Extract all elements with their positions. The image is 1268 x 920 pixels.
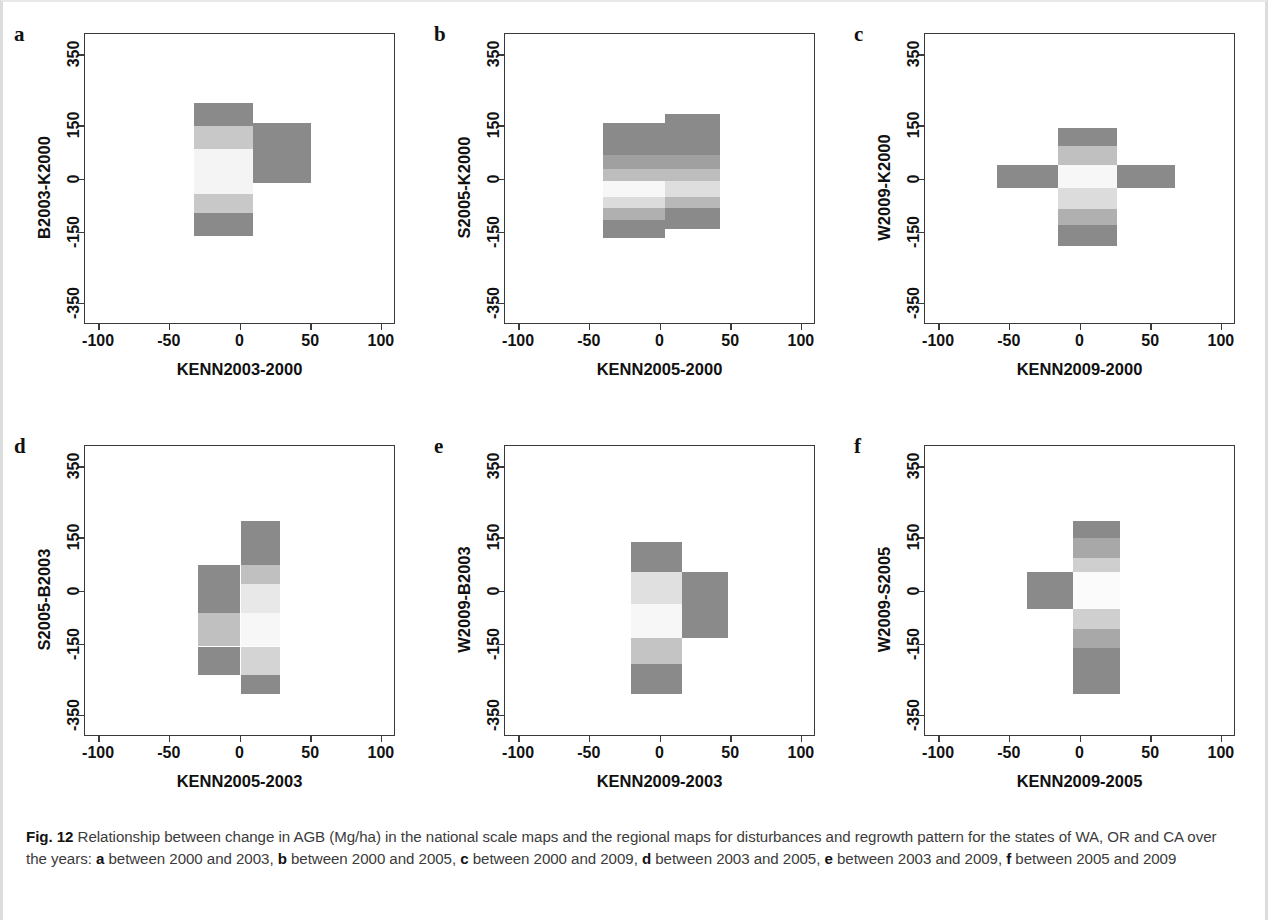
y-tick-text: -350 (905, 699, 923, 731)
caption-text-run: between 2000 and 2009, (469, 850, 642, 867)
caption-divider (26, 812, 1231, 813)
heatmap-cell (665, 197, 720, 208)
caption-bold-run: Fig. 12 (26, 828, 73, 845)
x-tick-label: 100 (1208, 744, 1235, 762)
x-tick-mark (1150, 736, 1152, 742)
heatmap-cell (603, 220, 665, 238)
y-tick-text: 350 (65, 41, 83, 68)
heatmap-cell (603, 197, 665, 208)
panel-letter-f: f (854, 436, 861, 457)
x-tick-label: -100 (922, 332, 954, 350)
caption-text-run: between 2003 and 2009, (833, 850, 1006, 867)
caption-text-run: between 2000 and 2003, (104, 850, 277, 867)
y-tick-text: -150 (485, 216, 503, 248)
heatmap-cell (631, 542, 682, 572)
plot-area-a (84, 33, 395, 324)
plot-area-e (504, 445, 815, 736)
y-tick-text: -150 (905, 628, 923, 660)
heatmap-cell (198, 565, 240, 613)
x-tick-mark (730, 736, 732, 742)
x-tick-label: -50 (577, 744, 600, 762)
y-axis-label-c: W2009-K2000 (875, 98, 894, 278)
x-tick-label: -100 (82, 744, 114, 762)
x-tick-mark (98, 324, 100, 330)
x-tick-mark (169, 324, 171, 330)
heatmap-cell (198, 613, 240, 647)
x-tick-mark (730, 324, 732, 330)
heatmap-cell (603, 169, 665, 181)
x-tick-label: 100 (368, 332, 395, 350)
heatmap-cell (1073, 629, 1120, 649)
heatmap-cell (631, 604, 682, 638)
x-tick-label: -100 (502, 744, 534, 762)
y-tick-text: 0 (905, 586, 923, 595)
heatmap-cell (253, 123, 311, 183)
heatmap-cell (665, 155, 720, 169)
heatmap-cell (1073, 521, 1120, 539)
heatmap-cell (631, 638, 682, 665)
plot-area-d (84, 445, 395, 736)
heatmap-cell (194, 194, 253, 214)
heatmap-cell (1058, 225, 1117, 246)
x-axis-label-d: KENN2005-2003 (84, 772, 395, 791)
x-tick-label: 50 (721, 744, 739, 762)
plot-area-f (924, 445, 1235, 736)
heatmap-cell (665, 114, 720, 155)
panel-letter-e: e (434, 436, 443, 457)
x-tick-mark (938, 324, 940, 330)
y-tick-text: 0 (65, 174, 83, 183)
y-tick-text: 350 (485, 41, 503, 68)
heatmap-cell (241, 647, 281, 675)
x-tick-mark (240, 736, 242, 742)
heatmap-cell (1073, 609, 1120, 629)
y-tick-text: -350 (65, 699, 83, 731)
x-tick-mark (381, 736, 383, 742)
heatmap-cell (1058, 146, 1117, 166)
x-tick-label: 100 (1208, 332, 1235, 350)
x-tick-mark (310, 324, 312, 330)
heatmap-cell (1073, 572, 1120, 609)
x-tick-mark (1150, 324, 1152, 330)
x-tick-label: -100 (502, 332, 534, 350)
panel-letter-b: b (434, 24, 446, 45)
y-tick-text: 150 (485, 524, 503, 551)
plot-area-c (924, 33, 1235, 324)
x-tick-mark (801, 324, 803, 330)
heatmap-cell (665, 169, 720, 181)
heatmap-cell (1058, 188, 1117, 208)
panel-grid: a3501500-150-350B2003-K2000-100-50050100… (0, 0, 1268, 812)
heatmap-cell (603, 123, 665, 155)
y-tick-text: 350 (65, 453, 83, 480)
caption-bold-run: c (460, 850, 468, 867)
heatmap-cell (241, 521, 281, 565)
x-tick-label: 100 (788, 744, 815, 762)
plot-area-b (504, 33, 815, 324)
y-tick-text: -350 (65, 287, 83, 319)
y-tick-text: 150 (485, 112, 503, 139)
y-tick-text: -150 (65, 216, 83, 248)
x-axis-label-a: KENN2003-2000 (84, 360, 395, 379)
x-axis-label-b: KENN2005-2000 (504, 360, 815, 379)
heatmap-cell (1073, 648, 1120, 694)
x-axis-label-e: KENN2009-2003 (504, 772, 815, 791)
x-tick-mark (589, 324, 591, 330)
heatmap-cell (603, 181, 665, 196)
heatmap-cell (241, 675, 281, 695)
x-tick-mark (589, 736, 591, 742)
y-axis-label-a: B2003-K2000 (35, 98, 54, 278)
x-tick-label: 0 (655, 744, 664, 762)
heatmap-cell (631, 572, 682, 604)
y-tick-text: -350 (905, 287, 923, 319)
x-tick-mark (518, 736, 520, 742)
x-tick-label: 0 (235, 332, 244, 350)
heatmap-cell (1073, 558, 1120, 572)
y-tick-text: 350 (485, 453, 503, 480)
heatmap-cell (603, 208, 665, 220)
heatmap-cell (682, 572, 729, 638)
panel-a: a3501500-150-350B2003-K2000-100-50050100… (0, 8, 420, 420)
x-axis-label-c: KENN2009-2000 (924, 360, 1235, 379)
x-tick-label: 0 (655, 332, 664, 350)
y-tick-text: 350 (905, 41, 923, 68)
y-axis-label-f: W2009-S2005 (875, 510, 894, 690)
x-tick-mark (1221, 324, 1223, 330)
